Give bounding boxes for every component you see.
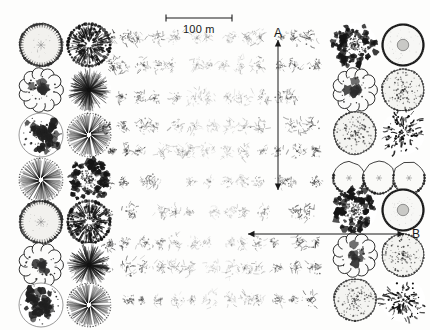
transect-arrow-b bbox=[248, 231, 404, 237]
annotation-layer bbox=[0, 0, 430, 330]
scale-bar-label: 100 m bbox=[183, 24, 215, 35]
transect-label-a: A bbox=[274, 27, 282, 39]
transect-label-b: B bbox=[412, 228, 420, 240]
scale-bar bbox=[166, 15, 232, 22]
transect-arrow-a bbox=[275, 40, 281, 190]
forest-stand-map-figure: 100 m A B bbox=[0, 0, 430, 330]
